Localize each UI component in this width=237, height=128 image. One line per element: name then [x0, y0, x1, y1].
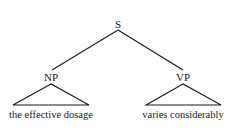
syntax-tree-diagram: S NP the effective dosage VP varies cons… [0, 0, 237, 128]
node-vp: VP [176, 71, 190, 83]
np-leaf-text: the effective dosage [9, 109, 93, 120]
np-triangle [13, 84, 89, 105]
root-node-s: S [115, 18, 121, 30]
vp-leaf-text: varies considerably [142, 109, 224, 120]
edge-s-np [52, 30, 118, 70]
vp-triangle [146, 84, 221, 105]
tree-svg: S NP the effective dosage VP varies cons… [0, 0, 237, 128]
edge-s-vp [118, 30, 183, 70]
node-np: NP [44, 71, 58, 83]
